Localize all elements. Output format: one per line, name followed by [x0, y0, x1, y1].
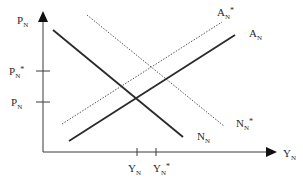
curve-label-an-star: AN*: [217, 6, 234, 21]
curve-nn: [53, 30, 183, 137]
y-tick-label-pn-star: PN*: [9, 65, 24, 80]
x-axis-arrow-icon: [266, 147, 277, 157]
y-axis-label: PN: [17, 14, 28, 29]
curve-an-star: [62, 22, 222, 124]
curve-label-nn: NN: [197, 130, 210, 145]
y-tick-label-pn: PN: [11, 96, 22, 111]
x-axis-label: YN: [283, 147, 296, 162]
y-axis-arrow-icon: [38, 11, 48, 22]
x-tick-label-yn: YN: [128, 162, 141, 177]
curve-label-nn-star: NN*: [236, 117, 253, 132]
curve-nn-star: [87, 15, 224, 126]
curve-label-an: AN: [249, 27, 262, 42]
x-tick-label-yn-star: YN*: [153, 162, 170, 177]
curve-an: [69, 35, 235, 141]
supply-demand-diagram: PN YN PN* PN YN YN* NN NN* AN AN*: [0, 0, 303, 184]
